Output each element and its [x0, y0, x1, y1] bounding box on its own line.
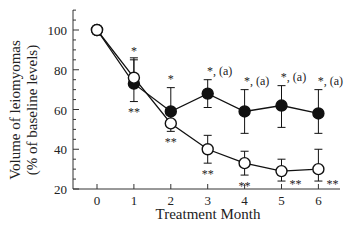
- y-tick-label: 40: [54, 142, 67, 157]
- filled-circles-marker: [313, 108, 324, 119]
- open-circles-marker: [313, 164, 324, 175]
- y-tick-label: 80: [54, 63, 67, 78]
- y-axis-label-line2: (% of baseline levels): [24, 45, 41, 175]
- x-tick-label: 6: [315, 193, 322, 208]
- y-tick-label: 60: [54, 103, 67, 118]
- open-circles-marker: [202, 144, 213, 155]
- y-tick-label: 20: [54, 182, 67, 197]
- x-tick-label: 1: [131, 193, 138, 208]
- significance-annotation: **: [290, 177, 302, 191]
- filled-circles-marker: [202, 88, 213, 99]
- significance-annotation: **: [326, 177, 338, 191]
- significance-annotation: *, (a): [318, 74, 343, 88]
- significance-annotation: *, (a): [281, 70, 306, 84]
- open-circles-marker: [165, 118, 176, 129]
- x-tick-label: 0: [94, 193, 101, 208]
- significance-annotation: **: [128, 105, 140, 119]
- significance-annotation: **: [239, 179, 251, 193]
- significance-annotation: *: [131, 44, 137, 58]
- open-circles-marker: [128, 72, 139, 83]
- leiomyoma-volume-chart: 204060801000123456 ***, (a)*, (a)*, (a)*…: [0, 0, 355, 233]
- open-circles-marker: [239, 158, 250, 169]
- filled-circles-marker: [276, 100, 287, 111]
- x-tick-label: 5: [278, 193, 285, 208]
- y-tick-label: 100: [48, 23, 68, 38]
- annotations: ***, (a)*, (a)*, (a)*, (a)************: [128, 44, 343, 193]
- x-axis-label: Treatment Month: [156, 206, 261, 222]
- filled-circles-marker: [165, 106, 176, 117]
- significance-annotation: *, (a): [244, 74, 269, 88]
- significance-annotation: *: [168, 72, 174, 86]
- series: [92, 25, 324, 182]
- significance-annotation: *, (a): [207, 64, 232, 78]
- y-axis-label: Volume of leiomyomas (% of baseline leve…: [7, 40, 41, 180]
- significance-annotation: **: [202, 167, 214, 181]
- open-circles-marker: [92, 25, 103, 36]
- significance-annotation: **: [165, 135, 177, 149]
- filled-circles-marker: [239, 106, 250, 117]
- open-circles-marker: [276, 166, 287, 177]
- y-axis-label-line1: Volume of leiomyomas: [7, 40, 23, 180]
